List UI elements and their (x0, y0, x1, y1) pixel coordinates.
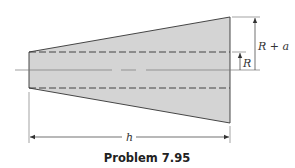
h-label: h (126, 131, 133, 144)
r-label: R (242, 57, 251, 70)
figure-caption: Problem 7.95 (104, 151, 190, 165)
diagram-canvas: R R + a h Problem 7.95 (0, 0, 295, 168)
r-plus-a-label: R + a (257, 40, 289, 53)
